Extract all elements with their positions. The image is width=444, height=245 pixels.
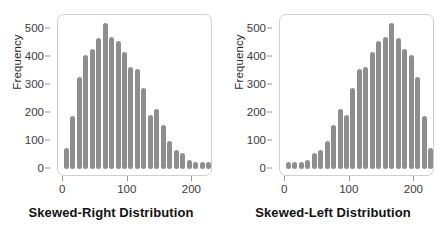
histogram-bar: [338, 109, 343, 169]
y-tick-mark: [45, 112, 50, 113]
histogram-bar: [70, 116, 75, 169]
y-axis-ticks: 0100200300400500: [240, 14, 272, 173]
histogram-bar: [206, 162, 211, 169]
y-tick-mark: [45, 84, 50, 85]
histogram-bar: [77, 77, 82, 169]
y-tick-mark: [267, 112, 272, 113]
y-tick-label: 100: [247, 134, 266, 146]
histogram-bar: [402, 49, 407, 169]
histogram-bar: [318, 150, 323, 169]
y-tick-label: 100: [25, 134, 44, 146]
histogram-bar: [83, 55, 88, 169]
y-tick-label: 200: [25, 106, 44, 118]
histogram-bar: [148, 115, 153, 169]
histogram-bar: [357, 69, 362, 169]
y-tick-mark: [267, 168, 272, 169]
y-tick-label: 300: [247, 78, 266, 90]
y-tick-label: 0: [38, 162, 44, 174]
plot-area: [57, 14, 212, 176]
x-tick-mark: [191, 176, 192, 181]
y-tick-mark: [267, 84, 272, 85]
x-tick-label: 100: [339, 183, 358, 195]
histogram-bar: [161, 125, 166, 169]
histogram-bar: [389, 23, 394, 169]
histogram-bar: [350, 88, 355, 169]
histogram-bar: [96, 38, 101, 169]
histogram-bar: [415, 77, 420, 169]
histogram-bar: [376, 41, 381, 169]
y-tick-label: 300: [25, 78, 44, 90]
x-axis-ticks: 0100200: [57, 176, 212, 202]
histogram-bar: [383, 37, 388, 169]
histogram-bar: [363, 67, 368, 169]
histogram-bar: [344, 115, 349, 169]
y-tick-label: 200: [247, 106, 266, 118]
histogram-bar: [409, 55, 414, 169]
x-tick-label: 200: [404, 183, 423, 195]
histogram-bar: [64, 148, 69, 169]
chart-panel-skewed-left: Frequency 0100200300400500 0100200 Skewe…: [222, 0, 444, 245]
y-tick-mark: [45, 56, 50, 57]
histogram-bars: [58, 15, 211, 175]
histogram-bar: [103, 23, 108, 169]
histogram-bar: [122, 52, 127, 169]
histogram-bar: [116, 41, 121, 169]
histogram-bar: [292, 162, 297, 169]
chart-title: Skewed-Left Distribution: [222, 205, 444, 220]
chart-title: Skewed-Right Distribution: [0, 205, 222, 220]
x-tick-mark: [413, 176, 414, 181]
y-tick-label: 0: [260, 162, 266, 174]
histogram-bar: [141, 88, 146, 169]
histogram-bar: [193, 162, 198, 169]
histogram-bar: [299, 162, 304, 169]
histogram-bar: [422, 116, 427, 169]
histogram-bar: [109, 37, 114, 169]
x-tick-mark: [62, 176, 63, 181]
histogram-bar: [128, 67, 133, 169]
y-tick-mark: [45, 140, 50, 141]
plot-area: [279, 14, 434, 176]
histogram-bar: [135, 69, 140, 169]
x-tick-label: 0: [281, 183, 287, 195]
x-tick-label: 100: [117, 183, 136, 195]
histogram-bar: [180, 153, 185, 169]
histogram-bar: [174, 150, 179, 169]
histogram-bar: [187, 160, 192, 169]
x-tick-mark: [127, 176, 128, 181]
histogram-bar: [90, 49, 95, 169]
y-tick-mark: [267, 56, 272, 57]
y-tick-label: 500: [25, 22, 44, 34]
histogram-bar: [167, 141, 172, 169]
y-tick-label: 400: [247, 50, 266, 62]
histogram-bar: [325, 141, 330, 169]
x-tick-label: 200: [182, 183, 201, 195]
y-tick-mark: [45, 168, 50, 169]
y-tick-mark: [267, 28, 272, 29]
y-tick-mark: [45, 28, 50, 29]
histogram-bar: [428, 148, 433, 169]
x-tick-mark: [349, 176, 350, 181]
y-tick-label: 500: [247, 22, 266, 34]
histogram-bar: [331, 125, 336, 169]
figure-panels: Frequency 0100200300400500 0100200 Skewe…: [0, 0, 444, 245]
x-axis-ticks: 0100200: [279, 176, 434, 202]
histogram-bar: [396, 38, 401, 169]
x-tick-mark: [284, 176, 285, 181]
chart-panel-skewed-right: Frequency 0100200300400500 0100200 Skewe…: [0, 0, 222, 245]
histogram-bar: [154, 109, 159, 169]
histogram-bar: [200, 162, 205, 169]
histogram-bar: [305, 160, 310, 169]
histogram-bar: [286, 162, 291, 169]
x-tick-label: 0: [59, 183, 65, 195]
y-tick-mark: [267, 140, 272, 141]
histogram-bar: [370, 52, 375, 169]
y-tick-label: 400: [25, 50, 44, 62]
y-axis-ticks: 0100200300400500: [18, 14, 50, 173]
histogram-bars: [280, 15, 433, 175]
histogram-bar: [312, 153, 317, 169]
